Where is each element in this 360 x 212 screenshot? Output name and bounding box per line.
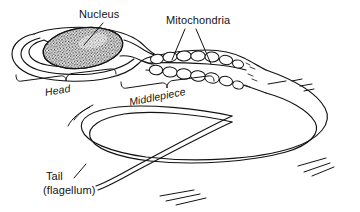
label-nucleus: Nucleus [79,8,119,20]
label-mitochondria: Mitochondria [166,14,230,26]
diagram-canvas: Nucleus Mitochondria Head Middlepiece Ta… [0,0,360,212]
tail-leader-line [74,164,86,178]
middlepiece-texture [245,63,257,87]
label-tail: Tail [46,170,63,182]
tail-flagellum [81,70,327,190]
label-tail-sublabel: (flagellum) [43,184,95,196]
